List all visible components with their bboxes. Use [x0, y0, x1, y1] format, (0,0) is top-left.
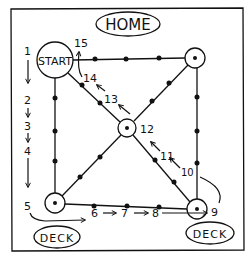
deck-left-text: DECK: [40, 232, 74, 245]
step-9: 9: [211, 206, 218, 219]
bottom-left-node: [45, 193, 65, 213]
arrow-up-left-icon: [151, 142, 160, 151]
start-text: START: [38, 55, 72, 68]
center-node: [118, 119, 136, 137]
arrow-up-left-icon: [119, 105, 130, 114]
arrow-up-icon: [78, 52, 82, 77]
step-14: 14: [83, 72, 97, 85]
step-3: 3: [24, 120, 31, 133]
step-2: 2: [24, 94, 31, 107]
curve-arrow-icon: [200, 177, 220, 203]
start-node: START: [37, 42, 73, 78]
step-15: 15: [74, 37, 88, 50]
edge-center-bottomleft: [62, 135, 121, 196]
base-path-diagram: HOME START: [0, 0, 250, 255]
step-12: 12: [140, 123, 154, 136]
top-right-node: [185, 48, 205, 68]
home-text: HOME: [105, 16, 151, 34]
step-1: 1: [24, 45, 31, 58]
step-4: 4: [24, 145, 31, 158]
step-7: 7: [121, 207, 128, 220]
step-8: 8: [152, 207, 159, 220]
deck-right-text: DECK: [193, 228, 227, 241]
step-10: 10: [181, 167, 194, 178]
step-11: 11: [160, 150, 174, 163]
edge-center-topright: [134, 65, 188, 121]
home-plate-label: HOME: [96, 12, 160, 36]
step-13: 13: [104, 93, 118, 106]
deck-right-label: DECK: [186, 222, 234, 244]
step-6: 6: [91, 207, 98, 220]
arrow-up-left-icon: [97, 85, 105, 91]
bottom-right-node: [187, 199, 207, 219]
arrow-right-icon: [30, 213, 85, 221]
step-5: 5: [24, 200, 31, 213]
edge-start-topright: [73, 58, 185, 60]
deck-left-label: DECK: [34, 226, 80, 248]
